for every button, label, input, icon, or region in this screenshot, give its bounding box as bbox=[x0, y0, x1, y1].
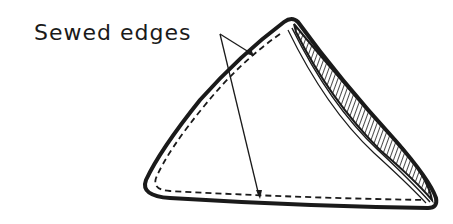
pouch-outline bbox=[145, 19, 436, 208]
diagram-canvas: Sewed edges bbox=[0, 0, 453, 224]
sewed-edges-label: Sewed edges bbox=[34, 20, 191, 45]
leader-line-upper bbox=[220, 34, 252, 54]
